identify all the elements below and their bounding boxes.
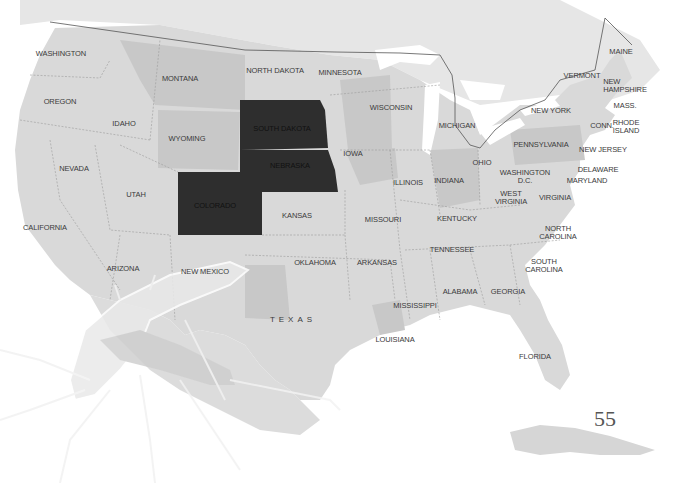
label-new-york: NEW YORK (531, 107, 571, 115)
label-maryland: MARYLAND (567, 177, 608, 185)
label-kansas: KANSAS (282, 212, 312, 220)
label-minnesota: MINNESOTA (318, 69, 361, 77)
label-pennsylvania: PENNSYLVANIA (513, 141, 568, 149)
label-colorado: COLORADO (194, 202, 236, 210)
label-nevada: NEVADA (59, 165, 89, 173)
label-maine: MAINE (609, 48, 632, 56)
page-number: 55 (594, 406, 616, 432)
label-north-carolina: NORTH CAROLINA (539, 225, 577, 241)
label-missouri: MISSOURI (365, 216, 401, 224)
label-washington-dc: WASHINGTON D.C. (500, 169, 550, 185)
label-tennessee: TENNESSEE (430, 246, 475, 254)
label-wisconsin: WISCONSIN (370, 104, 412, 112)
label-indiana: INDIANA (434, 177, 464, 185)
cuba-island (510, 425, 655, 455)
label-kentucky: KENTUCKY (437, 215, 477, 223)
label-texas: TEXAS (270, 316, 316, 324)
label-west-virginia: WEST VIRGINIA (495, 190, 527, 206)
label-idaho: IDAHO (112, 120, 135, 128)
label-florida: FLORIDA (519, 353, 551, 361)
label-new-jersey: NEW JERSEY (579, 146, 627, 154)
label-ohio: OHIO (473, 159, 492, 167)
label-mississippi: MISSISSIPPI (393, 302, 437, 310)
label-michigan: MICHIGAN (439, 122, 476, 130)
label-washington: WASHINGTON (36, 50, 86, 58)
label-delaware: DELAWARE (578, 166, 619, 174)
label-north-dakota: NORTH DAKOTA (246, 67, 304, 75)
label-illinois: ILLINOIS (393, 179, 423, 187)
label-rhode-island: RHODE ISLAND (613, 119, 640, 135)
label-vermont: VERMONT (564, 72, 601, 80)
label-new-mexico: NEW MEXICO (181, 268, 229, 276)
label-montana: MONTANA (162, 75, 198, 83)
label-louisiana: LOUISIANA (375, 336, 414, 344)
label-south-carolina: SOUTH CAROLINA (525, 258, 563, 274)
label-alabama: ALABAMA (443, 288, 478, 296)
label-california: CALIFORNIA (23, 224, 67, 232)
label-conn: CONN. (590, 122, 614, 130)
label-arizona: ARIZONA (107, 265, 140, 273)
label-arkansas: ARKANSAS (357, 259, 397, 267)
label-georgia: GEORGIA (491, 288, 525, 296)
label-oregon: OREGON (44, 98, 77, 106)
label-south-dakota: SOUTH DAKOTA (253, 125, 310, 133)
label-utah: UTAH (126, 191, 145, 199)
label-wyoming: WYOMING (169, 135, 206, 143)
label-new-hampshire: NEW HAMPSHIRE (603, 78, 647, 94)
label-mass: MASS. (614, 102, 637, 110)
label-iowa: IOWA (343, 150, 362, 158)
label-oklahoma: OKLAHOMA (294, 259, 336, 267)
label-virginia: VIRGINIA (539, 194, 571, 202)
label-nebraska: NEBRASKA (270, 162, 310, 170)
